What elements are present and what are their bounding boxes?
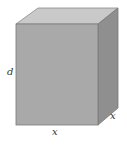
height-label: d: [7, 67, 13, 77]
box-diagram: [0, 0, 127, 146]
box-front-face: [16, 24, 98, 125]
width-label: x: [52, 127, 58, 137]
depth-label: x: [110, 111, 116, 121]
box-side-face: [98, 8, 118, 125]
